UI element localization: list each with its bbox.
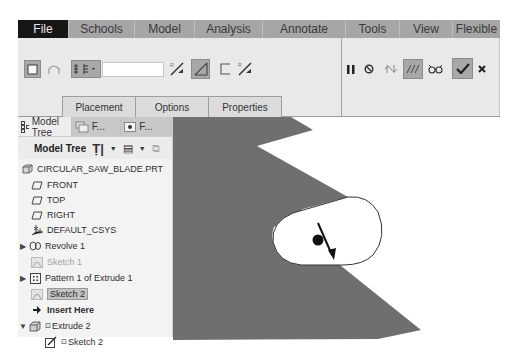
menu-model[interactable]: Model bbox=[135, 20, 195, 38]
ribbon-edge bbox=[499, 38, 500, 116]
detached-preview-icon bbox=[406, 64, 420, 74]
remove-material-button[interactable] bbox=[191, 59, 210, 79]
thicken-sketch-icon bbox=[220, 63, 231, 75]
lock-marker-icon: ⊡ bbox=[45, 322, 51, 330]
saw-blade-model bbox=[173, 117, 514, 353]
menu-file[interactable]: File bbox=[18, 20, 69, 38]
flip-thicken-icon: R bbox=[237, 61, 253, 77]
sketch-edit-icon bbox=[44, 336, 58, 348]
depth-options-dropdown[interactable] bbox=[71, 60, 101, 78]
no-preview-button[interactable] bbox=[363, 61, 375, 77]
filter-icon[interactable]: ⧉ bbox=[152, 142, 160, 155]
datum-plane-icon bbox=[30, 209, 44, 221]
remove-material-icon bbox=[194, 62, 208, 76]
tab-favorites-label: F... bbox=[139, 121, 152, 132]
surface-button[interactable] bbox=[46, 60, 62, 78]
menu-flexible[interactable]: Flexible bbox=[453, 20, 500, 38]
svg-text:R: R bbox=[170, 62, 174, 68]
flip-thicken-button[interactable]: R bbox=[236, 59, 254, 79]
tree-toolbar-title: Model Tree bbox=[34, 143, 86, 154]
navigator-panel: Model Tree F... F... Model Tree Ṭ| ▼ ▤ ▼… bbox=[18, 117, 173, 337]
tree-item-revolve-1[interactable]: ▶ Revolve 1 bbox=[18, 238, 85, 254]
ok-button[interactable] bbox=[452, 58, 473, 79]
tree-item-part[interactable]: CIRCULAR_SAW_BLADE.PRT bbox=[20, 161, 163, 177]
ribbon-divider bbox=[341, 38, 342, 116]
pattern-icon bbox=[28, 272, 42, 284]
tree-item-default-csys[interactable]: DEFAULT_CSYS bbox=[30, 222, 116, 238]
solid-icon bbox=[27, 64, 38, 75]
tab-properties[interactable]: Properties bbox=[208, 96, 282, 117]
detached-preview-button[interactable] bbox=[403, 59, 423, 79]
tab-placement[interactable]: Placement bbox=[62, 96, 136, 117]
tab-model-tree[interactable]: Model Tree bbox=[18, 117, 72, 136]
pause-icon bbox=[347, 65, 355, 74]
expand-arrow-icon[interactable]: ▶ bbox=[18, 274, 28, 283]
tree-item-front[interactable]: FRONT bbox=[30, 177, 78, 193]
tree-item-top[interactable]: TOP bbox=[30, 192, 65, 208]
depth-value-input[interactable] bbox=[102, 62, 164, 77]
flip-direction-button[interactable]: R bbox=[168, 59, 186, 79]
attached-preview-button[interactable] bbox=[383, 60, 399, 78]
sketch-icon bbox=[30, 256, 44, 268]
settings-tools-icon[interactable]: Ṭ| bbox=[92, 141, 104, 156]
menu-schools[interactable]: Schools bbox=[69, 20, 135, 38]
verify-button[interactable] bbox=[427, 60, 443, 78]
cancel-button[interactable] bbox=[476, 61, 488, 76]
tree-item-extrude-2-sketch[interactable]: ⊡ Sketch 2 bbox=[44, 334, 103, 350]
part-icon bbox=[20, 163, 34, 175]
drag-handle-point[interactable] bbox=[313, 235, 324, 246]
csys-icon bbox=[30, 224, 44, 236]
tree-item-sketch-1[interactable]: Sketch 1 bbox=[30, 254, 82, 270]
tree-item-sketch-2[interactable]: Sketch 2 bbox=[30, 286, 88, 302]
model-tree: CIRCULAR_SAW_BLADE.PRT FRONT TOP RIGHT D… bbox=[18, 159, 172, 337]
tree-toolbar: Model Tree Ṭ| ▼ ▤ ▼ ⧉ bbox=[18, 137, 172, 159]
attached-preview-icon bbox=[384, 63, 398, 75]
favorites-icon bbox=[124, 121, 136, 132]
menu-bar: File Schools Model Analysis Annotate Too… bbox=[18, 20, 500, 38]
dropdown-arrow-icon[interactable]: ▼ bbox=[139, 145, 146, 152]
svg-text:R: R bbox=[238, 62, 242, 68]
tree-item-pattern-1[interactable]: ▶ Pattern 1 of Extrude 1 bbox=[18, 270, 133, 286]
menu-analysis[interactable]: Analysis bbox=[195, 20, 263, 38]
datum-plane-icon bbox=[30, 179, 44, 191]
pause-button[interactable] bbox=[345, 61, 357, 77]
show-icon[interactable]: ▤ bbox=[123, 142, 133, 155]
sketch-icon bbox=[30, 288, 44, 300]
menu-view[interactable]: View bbox=[400, 20, 453, 38]
navigator-tabs: Model Tree F... F... bbox=[18, 117, 172, 137]
tab-favorites[interactable]: F... bbox=[121, 117, 172, 136]
no-preview-icon bbox=[364, 64, 374, 74]
tab-model-tree-label: Model Tree bbox=[32, 116, 71, 138]
extrude-dashboard: R R Placement Options Properties bbox=[18, 38, 500, 117]
insert-arrow-icon bbox=[30, 304, 44, 316]
graphics-window[interactable] bbox=[173, 117, 514, 353]
expand-arrow-icon[interactable]: ▶ bbox=[18, 242, 28, 251]
tree-item-extrude-2[interactable]: ▼ ⊡ Extrude 2 bbox=[18, 318, 91, 334]
tab-folder-browser-label: F... bbox=[92, 121, 105, 132]
close-icon bbox=[478, 65, 486, 73]
collapse-arrow-icon[interactable]: ▼ bbox=[18, 322, 28, 331]
dashboard-sub-tabs: Placement Options Properties bbox=[62, 96, 281, 117]
tree-item-right[interactable]: RIGHT bbox=[30, 207, 75, 223]
revolve-icon bbox=[28, 240, 42, 252]
selected-label: Sketch 2 bbox=[47, 288, 88, 300]
extrude-icon bbox=[28, 320, 42, 332]
menu-annotate[interactable]: Annotate bbox=[263, 20, 346, 38]
tree-item-insert-here[interactable]: Insert Here bbox=[30, 302, 94, 318]
verify-icon bbox=[428, 64, 443, 74]
dropdown-arrow-icon[interactable]: ▼ bbox=[110, 145, 117, 152]
tab-options[interactable]: Options bbox=[135, 96, 209, 117]
lock-marker-icon: ⊡ bbox=[61, 338, 67, 346]
menu-tools[interactable]: Tools bbox=[346, 20, 400, 38]
model-tree-icon bbox=[21, 121, 29, 133]
thicken-button[interactable] bbox=[218, 60, 232, 78]
checkmark-icon bbox=[456, 63, 470, 74]
flip-direction-icon: R bbox=[169, 61, 185, 77]
datum-plane-icon bbox=[30, 194, 44, 206]
surface-icon bbox=[48, 64, 60, 75]
tab-folder-browser[interactable]: F... bbox=[72, 117, 122, 136]
folder-browser-icon bbox=[75, 121, 89, 133]
solid-button[interactable] bbox=[24, 60, 41, 78]
depth-options-icon bbox=[73, 63, 99, 75]
